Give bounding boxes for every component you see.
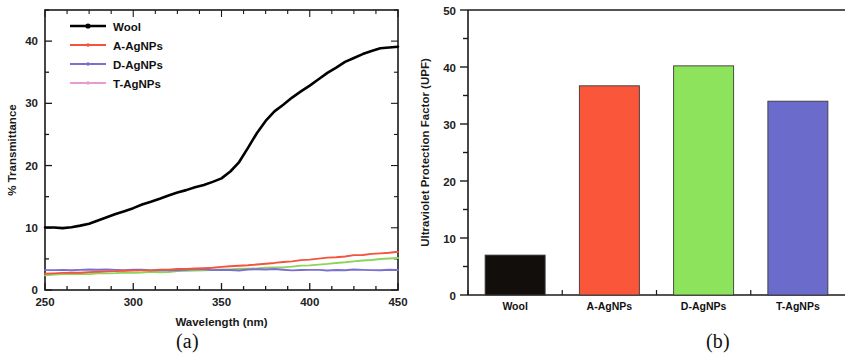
y-tick-label-10: 10 bbox=[25, 222, 38, 234]
legend-swatch-marker bbox=[86, 81, 90, 85]
x-axis-title: Wavelength (nm) bbox=[175, 316, 267, 328]
y-tick-label-0: 0 bbox=[32, 284, 38, 296]
bar-wool bbox=[485, 255, 545, 295]
bar-group-d-agnps: D-AgNPs bbox=[674, 66, 734, 312]
x-category-label-t-agnps: T-AgNPs bbox=[776, 300, 820, 312]
transmittance-plot: 250300350400450010203040Wavelength (nm)%… bbox=[0, 0, 430, 330]
x-category-label-a-agnps: A-AgNPs bbox=[587, 300, 633, 312]
x-category-label-d-agnps: D-AgNPs bbox=[681, 300, 727, 312]
y-tick-label-50: 50 bbox=[443, 5, 456, 17]
y-tick-label-30: 30 bbox=[443, 119, 456, 131]
bar-group-t-agnps: T-AgNPs bbox=[768, 101, 828, 312]
y-tick-label-20: 20 bbox=[25, 160, 38, 172]
legend-swatch-marker bbox=[85, 23, 90, 28]
bar-d-agnps bbox=[674, 66, 734, 295]
x-tick-label-450: 450 bbox=[388, 296, 407, 308]
x-tick-label-250: 250 bbox=[35, 296, 54, 308]
bar-group-wool: Wool bbox=[485, 255, 545, 312]
panel-b-upf-chart: 01020304050Ultraviolet Protection Factor… bbox=[415, 0, 845, 361]
plot-frame bbox=[45, 10, 398, 290]
legend-label-a-agnps: A-AgNPs bbox=[113, 40, 163, 52]
legend-label-d-agnps: D-AgNPs bbox=[113, 59, 163, 71]
bar-a-agnps bbox=[579, 86, 639, 295]
y-tick-label-0: 0 bbox=[450, 290, 456, 302]
y-tick-label-40: 40 bbox=[25, 35, 38, 47]
y-tick-label-10: 10 bbox=[443, 233, 456, 245]
x-tick-label-300: 300 bbox=[124, 296, 143, 308]
panel-b-caption: (b) bbox=[706, 330, 730, 353]
legend-swatch-marker bbox=[86, 62, 90, 66]
legend-swatch-marker bbox=[86, 43, 90, 47]
y-axis-title: Ultraviolet Protection Factor (UPF) bbox=[419, 58, 431, 247]
y-tick-label-40: 40 bbox=[443, 62, 456, 74]
panel-a-transmittance-chart: 250300350400450010203040Wavelength (nm)%… bbox=[0, 0, 430, 361]
y-axis-title: % Transmittance bbox=[6, 104, 18, 195]
x-tick-label-350: 350 bbox=[212, 296, 231, 308]
panel-a-caption: (a) bbox=[176, 330, 199, 353]
bar-group-a-agnps: A-AgNPs bbox=[579, 86, 639, 312]
legend-label-wool: Wool bbox=[113, 21, 141, 33]
y-tick-label-20: 20 bbox=[443, 176, 456, 188]
bar-t-agnps bbox=[768, 101, 828, 295]
y-tick-label-30: 30 bbox=[25, 97, 38, 109]
x-category-label-wool: Wool bbox=[502, 300, 528, 312]
x-tick-label-400: 400 bbox=[300, 296, 319, 308]
figure-container: 250300350400450010203040Wavelength (nm)%… bbox=[0, 0, 845, 361]
upf-bar-plot: 01020304050Ultraviolet Protection Factor… bbox=[415, 0, 845, 330]
legend-label-t-agnps: T-AgNPs bbox=[113, 78, 161, 90]
